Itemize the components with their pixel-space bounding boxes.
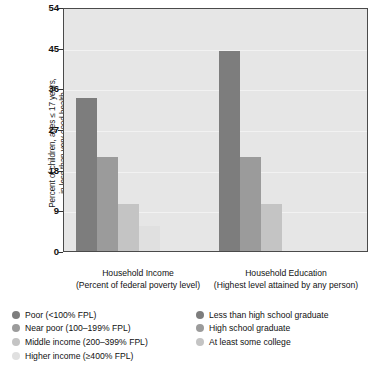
bar-0-1 [97, 157, 118, 251]
legend-household-income: Poor (<100% FPL)Near poor (100–199% FPL)… [12, 308, 148, 362]
legend-item: Less than high school graduate [196, 308, 328, 322]
y-tick-label-0: 0 [19, 246, 59, 257]
legend-swatch-icon [12, 352, 20, 360]
y-tick-label-18: 18 [19, 165, 59, 176]
group-label-household-education: Household Education (Highest level attai… [196, 268, 376, 291]
bar-1-0 [219, 51, 240, 251]
chart-figure: of socioeconomic status, and for childre… [0, 0, 377, 374]
legend-item: High school graduate [196, 322, 328, 336]
y-tick-label-36: 36 [19, 83, 59, 94]
plot-area [63, 8, 368, 252]
group-label-household-income: Household Income (Percent of federal pov… [58, 268, 218, 291]
legend-label: High school graduate [209, 323, 290, 333]
gridline-36 [64, 90, 367, 91]
legend-label: Higher income (≥400% FPL) [25, 351, 133, 361]
legend-label: Near poor (100–199% FPL) [25, 323, 131, 333]
bar-0-2 [118, 204, 139, 251]
legend-swatch-icon [196, 324, 204, 332]
legend-label: Middle income (200–399% FPL) [25, 337, 148, 347]
legend-label: Poor (<100% FPL) [25, 310, 96, 320]
legend-swatch-icon [12, 311, 20, 319]
y-tick-label-9: 9 [19, 205, 59, 216]
legend-item: Poor (<100% FPL) [12, 308, 148, 322]
y-tick-label-27: 27 [19, 124, 59, 135]
legend-swatch-icon [196, 311, 204, 319]
legend-item: Middle income (200–399% FPL) [12, 335, 148, 349]
gridline-45 [64, 50, 367, 51]
y-tick-mark-0 [58, 252, 63, 253]
bar-1-2 [261, 204, 282, 251]
legend-label: At least some college [209, 337, 291, 347]
gridline-27 [64, 131, 367, 132]
legend-swatch-icon [12, 338, 20, 346]
bar-0-3 [139, 226, 160, 251]
legend-item: At least some college [196, 335, 328, 349]
legend-household-education: Less than high school graduateHigh schoo… [196, 308, 328, 349]
y-tick-label-54: 54 [19, 2, 59, 13]
bar-0-0 [76, 98, 97, 251]
bar-1-1 [240, 157, 261, 251]
legend-swatch-icon [12, 324, 20, 332]
legend-item: Higher income (≥400% FPL) [12, 349, 148, 363]
legend-label: Less than high school graduate [209, 310, 328, 320]
legend-item: Near poor (100–199% FPL) [12, 322, 148, 336]
y-tick-label-45: 45 [19, 43, 59, 54]
legend-swatch-icon [196, 338, 204, 346]
